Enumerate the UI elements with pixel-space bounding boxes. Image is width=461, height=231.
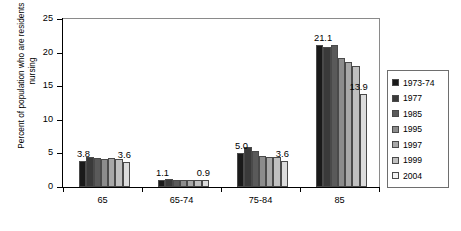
legend-label: 1995	[403, 124, 422, 134]
y-tick-mark	[57, 19, 62, 20]
x-tick-mark	[142, 188, 143, 192]
legend-label: 1985	[403, 109, 422, 119]
bar	[158, 180, 165, 187]
legend-label: 2004	[403, 171, 422, 181]
bar	[115, 159, 122, 187]
bar	[173, 180, 180, 187]
data-label: 3.6	[276, 148, 289, 159]
y-tick-label: 15	[31, 80, 53, 90]
bar	[273, 157, 280, 187]
bar	[180, 180, 187, 187]
legend-label: 1973-74	[403, 78, 435, 88]
bar	[252, 151, 259, 187]
legend-item: 1977	[392, 91, 448, 107]
legend-swatch-icon	[392, 95, 399, 102]
legend-swatch-icon	[392, 126, 399, 133]
y-tick-mark	[57, 53, 62, 54]
x-tick-mark	[379, 188, 380, 192]
legend-swatch-icon	[392, 79, 399, 86]
legend-swatch-icon	[392, 172, 399, 179]
bar	[165, 179, 172, 187]
legend-swatch-icon	[392, 157, 399, 164]
bar	[202, 180, 209, 187]
bar	[259, 156, 266, 187]
bar	[187, 180, 194, 187]
bar	[108, 158, 115, 187]
x-tick-mark	[221, 188, 222, 192]
y-tick-mark	[57, 86, 62, 87]
legend-item: 1997	[392, 137, 448, 153]
chart-legend: 1973-74197719851995199719992004	[387, 70, 449, 188]
data-label: 21.1	[314, 32, 332, 43]
y-tick-label: 20	[31, 47, 53, 57]
bar-series-container	[63, 19, 379, 187]
bar	[323, 47, 330, 187]
y-tick-mark	[57, 153, 62, 154]
y-tick-mark	[57, 120, 62, 121]
y-tick-label: 25	[31, 13, 53, 23]
legend-item: 1999	[392, 153, 448, 169]
bar	[101, 159, 108, 187]
legend-item: 1995	[392, 122, 448, 138]
x-tick-label: 65-74	[142, 195, 221, 205]
bar	[237, 153, 244, 187]
legend-label: 1997	[403, 140, 422, 150]
x-tick-label: 75-84	[221, 195, 300, 205]
x-tick-mark	[63, 188, 64, 192]
bar	[360, 94, 367, 187]
x-tick-mark	[300, 188, 301, 192]
data-label: 13.9	[349, 81, 367, 92]
bar-chart-figure: Percent of population who are residents …	[0, 0, 461, 231]
x-tick-label: 85	[300, 195, 379, 205]
bar	[338, 58, 345, 187]
bar	[86, 157, 93, 187]
legend-swatch-icon	[392, 141, 399, 148]
bar	[194, 180, 201, 187]
bar	[316, 45, 323, 187]
y-axis-title: Percent of population who are residents …	[16, 0, 46, 156]
legend-swatch-icon	[392, 110, 399, 117]
bar	[266, 157, 273, 187]
x-tick-label: 65	[63, 195, 142, 205]
bar	[79, 161, 86, 187]
bar	[244, 147, 251, 187]
y-tick-mark	[57, 187, 62, 188]
data-label: 3.8	[77, 148, 90, 159]
data-label: 3.6	[118, 149, 131, 160]
bar	[281, 161, 288, 187]
bar	[94, 158, 101, 187]
data-label: 1.1	[156, 167, 169, 178]
bar	[123, 162, 130, 187]
y-tick-label: 0	[31, 181, 53, 191]
bar	[331, 45, 338, 187]
data-label: 0.9	[197, 167, 210, 178]
legend-item: 2004	[392, 168, 448, 184]
legend-item: 1985	[392, 106, 448, 122]
y-tick-label: 10	[31, 114, 53, 124]
legend-label: 1999	[403, 155, 422, 165]
data-label: 5.0	[235, 140, 248, 151]
legend-item: 1973-74	[392, 75, 448, 91]
y-tick-label: 5	[31, 147, 53, 157]
legend-label: 1977	[403, 93, 422, 103]
